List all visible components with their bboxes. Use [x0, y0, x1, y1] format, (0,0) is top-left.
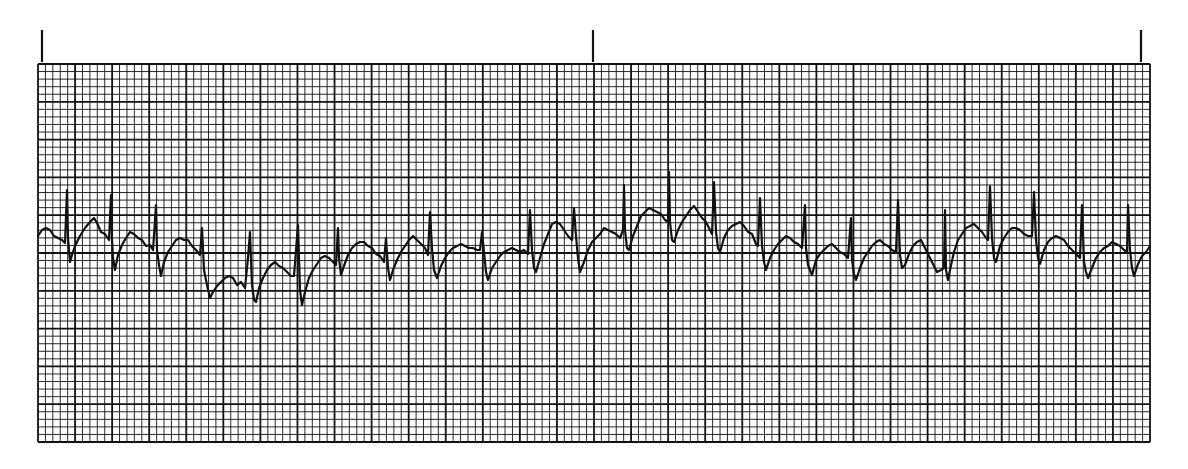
ecg-major-grid [38, 64, 1150, 442]
ecg-time-marks [42, 30, 1141, 62]
ecg-strip [0, 0, 1188, 469]
ecg-grid-and-trace [0, 0, 1188, 469]
